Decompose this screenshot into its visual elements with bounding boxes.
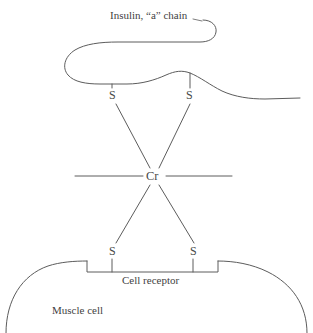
membrane-left-arc: [6, 261, 87, 333]
bottom-sulfur-bonds: [112, 259, 193, 272]
bond-cr-to-s-bottom-right: [159, 185, 194, 243]
bond-cr-to-s-bottom-left: [116, 185, 150, 243]
title-leader-path: [193, 19, 202, 21]
cell-membrane-with-receptor: [6, 261, 307, 333]
sulfur-atom-bottom-right-label: S: [189, 245, 198, 257]
chromium-atom-label: Cr: [145, 170, 160, 183]
muscle-cell-label: Muscle cell: [52, 305, 103, 316]
cell-receptor-label: Cell receptor: [122, 275, 179, 286]
insulin-chain-path: [65, 20, 300, 99]
insulin-chain-label: Insulin, “a” chain: [110, 10, 187, 21]
insulin-chromium-receptor-diagram: Insulin, “a” chain S S Cr S S Cell recep…: [0, 0, 313, 333]
sulfur-atom-bottom-left-label: S: [108, 245, 117, 257]
insulin-chain-curve: [65, 20, 300, 99]
sulfur-atom-top-right-label: S: [185, 89, 194, 101]
bond-s-top-right-to-cr: [159, 104, 190, 168]
sulfur-atom-top-left-label: S: [108, 89, 117, 101]
top-s-to-cr-bonds: [116, 104, 190, 168]
membrane-right-arc: [218, 261, 307, 333]
receptor-notch-path: [87, 261, 218, 272]
bond-s-top-left-to-cr: [116, 104, 150, 168]
cr-to-bottom-s-bonds: [116, 185, 194, 243]
title-leader-line: [193, 19, 202, 21]
